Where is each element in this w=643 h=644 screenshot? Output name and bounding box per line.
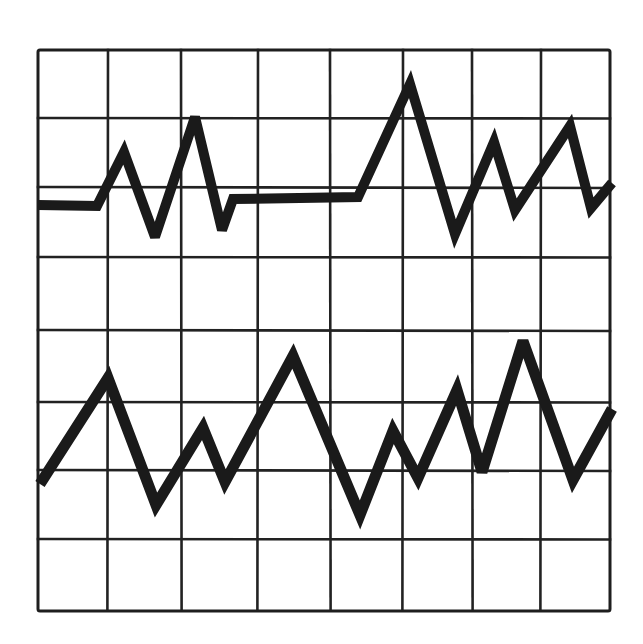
grid-horizontal-line bbox=[38, 330, 610, 331]
strip-chart bbox=[0, 0, 643, 644]
grid-horizontal-line bbox=[38, 470, 610, 471]
grid-horizontal-line bbox=[38, 402, 610, 403]
grid-horizontal-line bbox=[38, 539, 610, 540]
grid-horizontal-lines bbox=[38, 118, 610, 540]
grid-horizontal-line bbox=[38, 257, 610, 258]
lower-trace bbox=[40, 341, 612, 515]
signal-traces bbox=[38, 84, 612, 515]
upper-trace bbox=[38, 84, 612, 237]
grid-horizontal-line bbox=[38, 118, 610, 119]
